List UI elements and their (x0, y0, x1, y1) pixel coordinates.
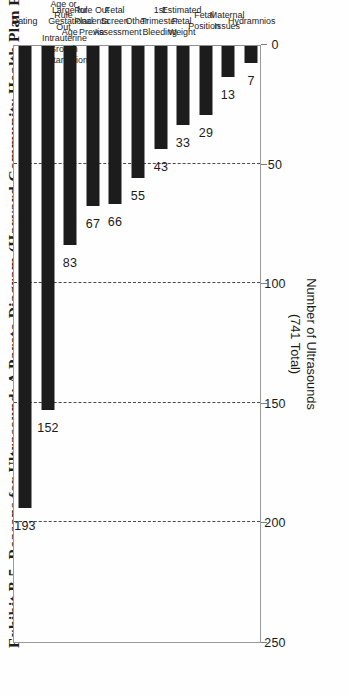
bar (177, 46, 190, 125)
tick-label-50: 50 (268, 158, 282, 172)
tick-label-0: 0 (271, 38, 278, 52)
bar-value-label: 29 (198, 126, 212, 140)
bar (109, 46, 122, 204)
bar-value-label: 7 (247, 74, 254, 88)
category-label: Dating (3, 16, 46, 27)
bar-series: 19315283676655433329137 (14, 46, 260, 642)
tick-50 (261, 164, 267, 165)
bar-row: 33 (172, 46, 195, 642)
tick-label-200: 200 (264, 516, 285, 530)
category-label-line: Dating (3, 16, 46, 27)
bar-value-label: 13 (221, 88, 235, 102)
bar-row: 55 (127, 46, 150, 642)
bar (19, 46, 32, 508)
bar (199, 46, 212, 115)
rotated-figure-canvas: Exhibit B.5. Reasons for Ultrasound: A P… (0, 0, 348, 695)
bar (41, 46, 54, 410)
bar (86, 46, 99, 206)
category-label-line: Fetal (93, 5, 136, 16)
bar-row: 83 (59, 46, 82, 642)
category-axis-labels: DatingSmall forGestationalAge or RuleOut… (13, 0, 261, 43)
bar (222, 46, 235, 77)
plot-area: 19315283676655433329137 (13, 45, 261, 643)
category-label-line: Assessment (93, 27, 136, 38)
bar-row: 43 (149, 46, 172, 642)
bar-value-label: 83 (63, 256, 77, 270)
bar-value-label: 193 (15, 519, 36, 533)
tick-label-150: 150 (264, 397, 285, 411)
bar (244, 46, 257, 63)
value-axis-title: Number of Ultrasounds (741 Total) (288, 45, 319, 643)
category-label-line: Growth Retardation (42, 44, 85, 66)
bar-row: 193 (14, 46, 37, 642)
tick-label-250: 250 (264, 636, 285, 650)
tick-label-100: 100 (264, 277, 285, 291)
bar-row: 7 (239, 46, 262, 642)
tick-0 (261, 44, 267, 45)
bar-row: 13 (217, 46, 240, 642)
bar-value-label: 55 (131, 189, 145, 203)
value-axis-title-line-1: Number of Ultrasounds (304, 45, 320, 643)
bar (64, 46, 77, 245)
pareto-figure: Exhibit B.5. Reasons for Ultrasound: A P… (0, 0, 348, 695)
category-label-line: Hydramnios (228, 16, 271, 27)
bar-value-label: 152 (37, 421, 58, 435)
bar (131, 46, 144, 178)
value-axis-title-line-2: (741 Total) (288, 45, 304, 643)
category-label: Hydramnios (228, 16, 271, 27)
bar-row: 66 (104, 46, 127, 642)
bar-value-label: 67 (86, 217, 100, 231)
bar (154, 46, 167, 149)
bar-value-label: 66 (108, 215, 122, 229)
bar-value-label: 33 (176, 136, 190, 150)
bar-row: 67 (82, 46, 105, 642)
bar-row: 29 (194, 46, 217, 642)
bar-row: 152 (37, 46, 60, 642)
bar-value-label: 43 (153, 160, 167, 174)
